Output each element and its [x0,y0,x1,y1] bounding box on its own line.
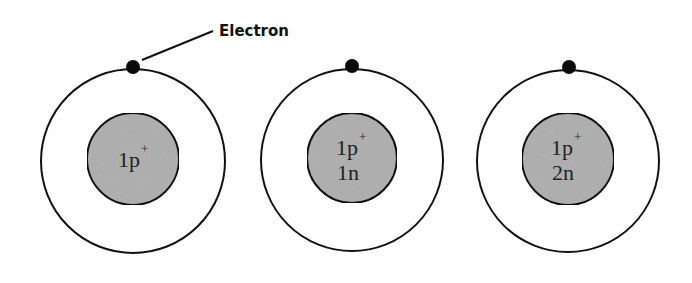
atom-tritium: 1p + 2n [477,60,659,252]
proton-charge-sup: + [359,129,366,144]
proton-charge-sup: + [574,129,581,144]
nucleus-neutrons: 2n [552,160,574,185]
electron-dot [126,60,140,74]
atom-protium: 1p + [41,60,225,253]
nucleus-protons: 1p [118,147,140,172]
hydrogen-isotopes-diagram: Electron 1p + 1p + 1n 1p + 2n [0,0,692,283]
proton-charge-sup: + [141,141,148,156]
electron-callout: Electron [142,22,289,60]
nucleus-protons: 1p [336,135,358,160]
nucleus-protons: 1p [551,135,573,160]
nucleus-neutrons: 1n [337,160,359,185]
electron-dot [345,59,359,73]
electron-dot [562,60,576,74]
callout-leader-line [142,31,213,60]
electron-label: Electron [219,22,289,40]
atom-deuterium: 1p + 1n [261,59,443,251]
